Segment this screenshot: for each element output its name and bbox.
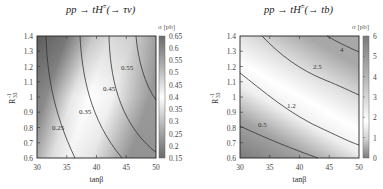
left-chart-panel: pp → tH±(→ τν) σ [pb] xyxy=(0,0,192,189)
left-cbtick: 0.15 xyxy=(169,154,182,163)
right-ytick: 1.4 xyxy=(227,32,237,41)
left-heatmap: 0.25 0.35 0.45 0.55 1.4 1.3 1.2 1.1 1 0.… xyxy=(0,0,192,189)
left-cbtick: 0.5 xyxy=(169,68,179,77)
left-contour-label-2: 0.35 xyxy=(79,108,92,116)
left-xtick: 30 xyxy=(33,163,41,172)
right-ytick: 1.2 xyxy=(227,63,237,72)
right-ytick: 0.8 xyxy=(227,124,237,133)
left-cbtick: 0.55 xyxy=(169,56,182,65)
right-contour-label-1: 0.5 xyxy=(258,121,267,129)
right-ytick: 0.6 xyxy=(227,154,237,163)
svg-text:-1: -1 xyxy=(6,93,12,98)
svg-text:-1: -1 xyxy=(209,93,215,98)
right-ytick: 0.7 xyxy=(227,139,237,148)
right-xtick: 40 xyxy=(296,163,304,172)
right-xtick: 50 xyxy=(355,163,363,172)
left-xtick: 45 xyxy=(123,163,131,172)
right-ytick: 1.1 xyxy=(227,78,237,87)
right-cbtick: 1 xyxy=(373,134,377,143)
left-ytick: 0.7 xyxy=(24,139,34,148)
right-xtick: 30 xyxy=(236,163,244,172)
right-ytick: 0.9 xyxy=(227,108,237,117)
left-ytick: 0.6 xyxy=(24,154,34,163)
left-cbtick: 0.3 xyxy=(169,117,179,126)
left-ytick: 1 xyxy=(29,93,33,102)
right-contour-label-4: 4 xyxy=(340,46,344,54)
right-cbtick: 0 xyxy=(373,154,377,163)
left-contour-label-3: 0.45 xyxy=(103,85,116,93)
right-xtick: 45 xyxy=(326,163,334,172)
right-contour-label-3: 2.5 xyxy=(313,63,322,71)
left-cbtick: 0.25 xyxy=(169,130,182,139)
svg-text:33: 33 xyxy=(12,92,18,98)
left-xtick: 35 xyxy=(63,163,71,172)
right-xaxis-label: tanβ xyxy=(293,175,307,184)
right-ytick: 1.3 xyxy=(227,47,237,56)
left-cbtick: 0.45 xyxy=(169,81,182,90)
left-cbtick: 0.2 xyxy=(169,142,179,151)
right-contour-label-2: 1.2 xyxy=(287,102,296,110)
left-xaxis-label: tanβ xyxy=(90,175,104,184)
left-ytick: 1.1 xyxy=(24,78,34,87)
right-chart-panel: pp → tH±(→ tb) σ [pb] xyxy=(192,0,383,189)
right-heatmap: 0.5 1.2 2.5 4 1.4 1.3 1.2 1.1 1 0.9 0.8 … xyxy=(192,0,383,189)
right-cbtick: 3 xyxy=(373,93,377,102)
right-cbtick: 2 xyxy=(373,113,377,122)
left-cbtick: 0.35 xyxy=(169,105,182,114)
left-xtick: 40 xyxy=(93,163,101,172)
left-cbtick: 0.6 xyxy=(169,44,179,53)
left-cbtick: 0.65 xyxy=(169,32,182,41)
right-xtick: 35 xyxy=(266,163,274,172)
right-cbtick: 6 xyxy=(373,32,377,41)
left-ytick: 1.4 xyxy=(24,32,34,41)
left-contour-label-4: 0.55 xyxy=(121,64,134,72)
svg-text:33: 33 xyxy=(215,92,221,98)
left-ytick: 1.3 xyxy=(24,47,34,56)
right-ytick: 1 xyxy=(232,93,236,102)
left-ytick: 0.9 xyxy=(24,108,34,117)
right-cbtick: 5 xyxy=(373,52,377,61)
left-xtick: 50 xyxy=(152,163,160,172)
left-cbtick: 0.4 xyxy=(169,93,179,102)
right-plot-area xyxy=(240,36,359,158)
right-cbtick: 4 xyxy=(373,73,377,82)
left-ytick: 0.8 xyxy=(24,124,34,133)
left-ytick: 1.2 xyxy=(24,63,34,72)
right-yaxis-label: R 33 -1 xyxy=(209,92,221,104)
left-colorbar xyxy=(159,36,165,158)
left-yaxis-label: R 33 -1 xyxy=(6,92,18,104)
left-contour-label-1: 0.25 xyxy=(52,124,65,132)
